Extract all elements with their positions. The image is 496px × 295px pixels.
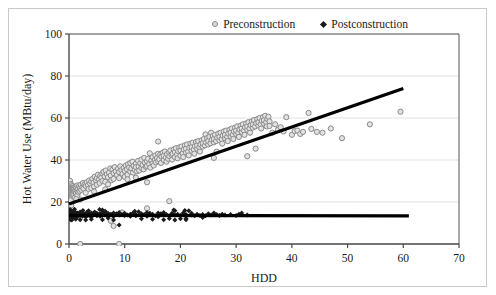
- x-axis-tick-label: 30: [230, 252, 242, 264]
- scatter-chart: 020406080100010203040506070HDDHot Water …: [9, 9, 488, 288]
- y-axis-tick-label: 20: [51, 196, 63, 208]
- x-axis-title: HDD: [251, 271, 277, 285]
- data-point: [167, 199, 172, 204]
- data-point: [314, 129, 319, 134]
- y-axis-tick-label: 0: [56, 238, 62, 250]
- data-point: [125, 177, 130, 182]
- data-point: [117, 223, 122, 228]
- data-point: [78, 241, 83, 246]
- x-axis-tick-label: 70: [453, 252, 465, 264]
- y-axis-title: Hot Water Use (MBtu/day): [20, 74, 34, 204]
- data-point: [259, 126, 264, 131]
- x-axis-tick-label: 50: [342, 252, 354, 264]
- x-axis-tick-label: 0: [66, 252, 72, 264]
- data-point: [284, 115, 289, 120]
- data-point: [339, 136, 344, 141]
- data-point: [398, 109, 403, 114]
- data-point: [253, 146, 258, 151]
- data-point: [117, 241, 122, 246]
- data-point: [161, 217, 166, 222]
- data-point: [225, 139, 230, 144]
- data-point: [172, 218, 177, 223]
- x-axis-tick-label: 10: [119, 252, 131, 264]
- data-point: [236, 134, 241, 139]
- data-point: [144, 180, 149, 185]
- y-axis-tick-label: 80: [51, 70, 63, 82]
- data-point: [242, 132, 247, 137]
- data-point: [267, 123, 272, 128]
- data-point: [300, 129, 305, 134]
- data-point: [150, 217, 155, 222]
- data-point: [192, 151, 197, 156]
- data-point: [111, 223, 116, 228]
- y-axis-tick-label: 100: [45, 28, 63, 40]
- y-axis-tick-label: 60: [51, 112, 63, 124]
- x-axis-tick-label: 60: [398, 252, 410, 264]
- figure-frame: Preconstruction Postconstruction 0204060…: [8, 8, 487, 287]
- data-point: [231, 136, 236, 141]
- data-point: [156, 139, 161, 144]
- data-point: [220, 141, 225, 146]
- x-axis-tick-label: 40: [286, 252, 298, 264]
- data-point: [245, 154, 250, 159]
- data-point: [247, 130, 252, 135]
- data-point: [367, 122, 372, 127]
- data-point: [309, 126, 314, 131]
- data-point: [83, 218, 88, 223]
- data-point: [273, 122, 278, 127]
- data-point: [320, 130, 325, 135]
- data-point: [197, 149, 202, 154]
- x-axis-tick-label: 20: [175, 252, 187, 264]
- data-point: [306, 110, 311, 115]
- plot-area: 020406080100010203040506070HDDHot Water …: [9, 9, 488, 288]
- data-point: [328, 126, 333, 131]
- trendline-preconstruction: [69, 89, 403, 205]
- y-axis-tick-label: 40: [51, 154, 63, 166]
